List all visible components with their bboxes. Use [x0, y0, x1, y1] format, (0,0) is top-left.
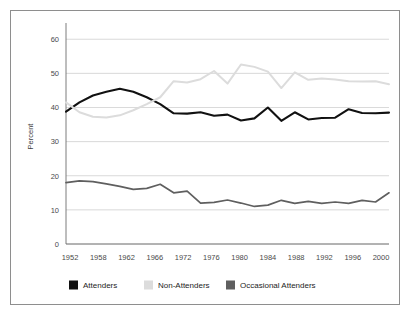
x-tick-label: 1976 [203, 253, 220, 262]
x-tick-label: 1962 [118, 253, 135, 262]
x-tick-label: 1980 [231, 253, 248, 262]
legend-label: Non-Attenders [158, 281, 210, 290]
legend-swatch [226, 281, 235, 290]
chart-figure-frame: 0102030405060 19521958196219661972197619… [10, 10, 400, 305]
x-tick-label: 1966 [146, 253, 163, 262]
chart-legend: AttendersNon-AttendersOccasional Attende… [69, 281, 316, 291]
legend-label: Occasional Attenders [240, 281, 316, 290]
x-tick-label: 1972 [175, 253, 192, 262]
legend-swatch [69, 281, 78, 290]
data-series-group [66, 64, 389, 206]
legend-swatch [144, 281, 153, 290]
y-tick-label: 0 [55, 240, 59, 249]
legend-label: Attenders [83, 281, 117, 290]
y-tick-label: 30 [51, 137, 59, 146]
x-tick-label: 1992 [316, 253, 333, 262]
gridlines-group [66, 39, 389, 244]
x-tick-label: 1952 [62, 253, 79, 262]
y-tick-label: 10 [51, 206, 59, 215]
y-tick-labels-group: 0102030405060 [51, 35, 59, 249]
x-tick-label: 1984 [260, 253, 277, 262]
series-line-occasional-attenders [66, 181, 389, 207]
x-tick-label: 1988 [288, 253, 305, 262]
y-tick-label: 50 [51, 69, 59, 78]
line-chart: 0102030405060 19521958196219661972197619… [11, 11, 401, 306]
y-tick-label: 40 [51, 103, 59, 112]
x-tick-label: 1958 [90, 253, 107, 262]
x-tick-labels-group: 1952195819621966197219761980198419881992… [62, 253, 390, 262]
x-tick-label: 2000 [373, 253, 390, 262]
y-tick-label: 20 [51, 172, 59, 181]
axis-lines-group [66, 23, 389, 244]
y-tick-label: 60 [51, 35, 59, 44]
y-axis-title: Percent [26, 123, 35, 150]
x-tick-label: 1996 [344, 253, 361, 262]
